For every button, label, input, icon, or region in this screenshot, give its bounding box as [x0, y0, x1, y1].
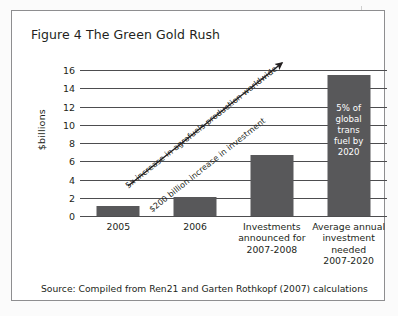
- bar-1: [97, 206, 140, 216]
- bar-slot: 2005: [80, 70, 157, 216]
- bar-4: 5% ofglobaltransfuel by2020: [327, 75, 370, 216]
- x-category-label: 2005: [76, 221, 161, 232]
- x-category-label: Investmentsannounced for2007-2008: [230, 221, 315, 255]
- bar-callout-line: 5% of: [327, 103, 370, 114]
- y-tick-label: 2: [69, 192, 75, 203]
- y-tick-label: 10: [63, 119, 75, 130]
- x-category-label: 2006: [153, 221, 238, 232]
- x-category-line: needed: [306, 244, 391, 255]
- bar-callout-line: trans: [327, 125, 370, 136]
- x-category-line: 2006: [153, 221, 238, 232]
- bar-callout-line: fuel by: [327, 136, 370, 147]
- x-category-line: 2007-2020: [306, 255, 391, 266]
- y-tick-label: 4: [69, 174, 75, 185]
- source-note: Source: Compiled from Ren21 and Garten R…: [41, 283, 368, 294]
- bar-slot: 5% ofglobaltransfuel by2020Average annua…: [310, 70, 387, 216]
- x-category-line: announced for: [230, 232, 315, 243]
- axis-baseline: 0: [80, 216, 387, 217]
- bar-2: [174, 197, 217, 216]
- x-category-line: investment: [306, 232, 391, 243]
- figure-frame: Figure 4 The Green Gold Rush $billions 1…: [11, 10, 385, 301]
- x-category-line: Investments: [230, 221, 315, 232]
- y-tick-label: 6: [69, 156, 75, 167]
- figure-title: Figure 4 The Green Gold Rush: [31, 27, 220, 42]
- bar-callout-line: global: [327, 114, 370, 125]
- bar-callout-label: 5% ofglobaltransfuel by2020: [327, 103, 370, 158]
- y-tick-label: 12: [63, 101, 75, 112]
- y-tick-label: 14: [63, 83, 75, 94]
- x-category-label: Average annualinvestmentneeded2007-2020: [306, 221, 391, 267]
- scanned-page: Figure 4 The Green Gold Rush $billions 1…: [0, 0, 398, 316]
- bar-3: [250, 155, 293, 216]
- x-category-line: Average annual: [306, 221, 391, 232]
- y-axis-title: $billions: [36, 109, 47, 150]
- y-tick-label: 0: [69, 211, 75, 222]
- y-tick-label: 16: [63, 65, 75, 76]
- x-category-line: 2007-2008: [230, 244, 315, 255]
- y-tick-label: 8: [69, 138, 75, 149]
- bar-callout-line: 2020: [327, 147, 370, 158]
- x-category-line: 2005: [76, 221, 161, 232]
